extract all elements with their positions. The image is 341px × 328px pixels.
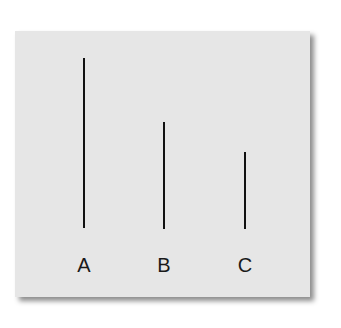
line-b [163,122,165,229]
line-c [244,152,246,229]
line-label-a: A [69,254,99,277]
line-label-b: B [149,254,179,277]
line-a [83,58,85,228]
line-label-c: C [230,254,260,277]
